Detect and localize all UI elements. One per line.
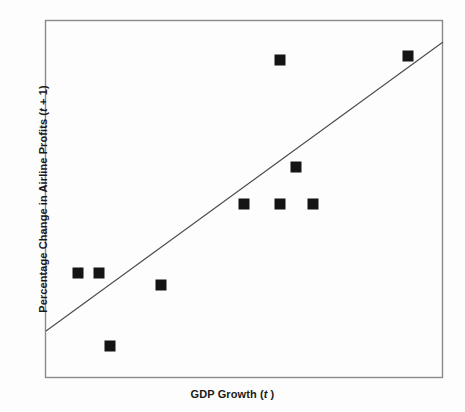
data-point-marker	[275, 199, 286, 210]
data-point-marker	[73, 268, 84, 279]
data-point-marker	[308, 199, 319, 210]
data-point-marker	[403, 51, 414, 62]
data-point-marker	[275, 55, 286, 66]
x-axis-title: GDP Growth (t )	[0, 388, 465, 400]
y-axis-title-prefix: Percentage Change in Airline Profits (	[37, 112, 49, 313]
data-point-marker	[156, 280, 167, 291]
y-axis-title-variable: t	[37, 108, 49, 112]
figure-background	[0, 0, 465, 412]
data-point-marker	[291, 162, 302, 173]
y-axis-title: Percentage Change in Airline Profits (t …	[33, 20, 53, 378]
y-axis-title-suffix: + 1)	[37, 85, 49, 108]
data-point-marker	[94, 268, 105, 279]
data-point-marker	[105, 341, 116, 352]
plot-canvas	[0, 0, 465, 412]
scatter-plot-figure: Percentage Change in Airline Profits (t …	[0, 0, 465, 412]
data-point-marker	[239, 199, 250, 210]
x-axis-title-prefix: GDP Growth (	[191, 388, 264, 400]
x-axis-title-suffix: )	[267, 388, 274, 400]
